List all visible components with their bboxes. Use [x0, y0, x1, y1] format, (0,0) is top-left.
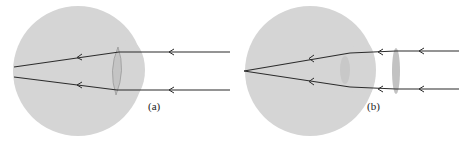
diagram-canvas — [0, 0, 471, 143]
eyeball-b — [245, 6, 376, 136]
panel-b — [244, 6, 459, 136]
panel-a — [13, 6, 230, 136]
panel-label-b: (b) — [367, 100, 380, 112]
eye-lens-b — [340, 56, 350, 84]
corrective-lens — [392, 48, 400, 94]
panel-label-a: (a) — [148, 100, 160, 112]
eyeball-a — [13, 6, 145, 136]
